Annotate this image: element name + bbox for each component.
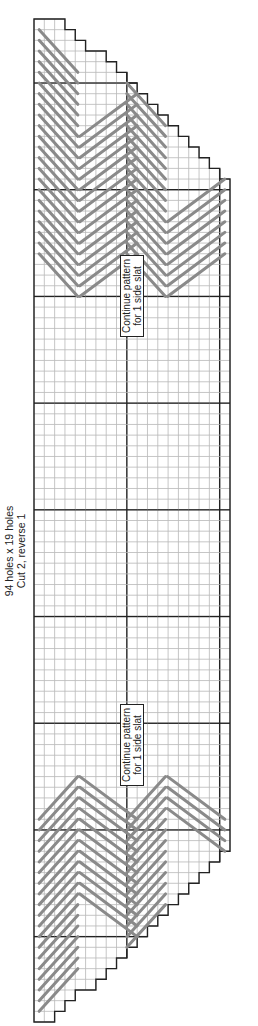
canvas-grid-chart bbox=[0, 0, 258, 1026]
continue-pattern-label-top: Continue pattern for 1 side slat bbox=[120, 255, 144, 337]
pattern-caption: 94 holes x 19 holes Cut 2, reverse 1 bbox=[3, 496, 27, 606]
size-text: 94 holes x 19 holes bbox=[3, 496, 15, 606]
continue-pattern-label-bottom: Continue pattern for 1 side slat bbox=[120, 704, 144, 786]
label-line-1: Continue pattern bbox=[121, 708, 132, 782]
label-line-2: for 1 side slat bbox=[132, 259, 143, 333]
label-line-2: for 1 side slat bbox=[132, 708, 143, 782]
cut-text: Cut 2, reverse 1 bbox=[15, 496, 27, 606]
label-line-1: Continue pattern bbox=[121, 259, 132, 333]
